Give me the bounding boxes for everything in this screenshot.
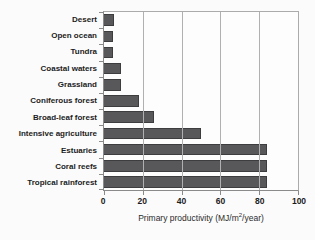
- bar: [104, 128, 201, 140]
- y-axis-tick-mark: [99, 189, 103, 190]
- x-tick-label: 60: [216, 196, 225, 206]
- bar-row: [104, 174, 298, 190]
- x-tick-label: 20: [137, 196, 146, 206]
- x-axis-tick-mark: [298, 191, 299, 195]
- bar: [104, 176, 267, 188]
- bar-row: [104, 142, 298, 158]
- y-axis-tick-mark: [99, 61, 103, 62]
- plot-area: [103, 11, 299, 191]
- category-labels: DesertOpen oceanTundraCoastal watersGras…: [0, 11, 97, 191]
- x-axis-tick-mark: [143, 191, 144, 195]
- bar-row: [104, 125, 298, 141]
- gridline: [143, 12, 144, 190]
- category-label: Grassland: [0, 76, 97, 92]
- bar-row: [104, 61, 298, 77]
- y-axis-tick-mark: [99, 77, 103, 78]
- bar: [104, 47, 113, 59]
- bar-row: [104, 44, 298, 60]
- y-axis-tick-mark: [99, 141, 103, 142]
- y-axis-tick-mark: [99, 44, 103, 45]
- x-tick-labels: 020406080100: [103, 196, 299, 207]
- bar-row: [104, 28, 298, 44]
- y-axis-tick-mark: [99, 158, 103, 159]
- gridline: [259, 12, 260, 190]
- category-label: Desert: [0, 11, 97, 27]
- bar: [104, 95, 139, 107]
- bar-row: [104, 158, 298, 174]
- category-label: Intensive agriculture: [0, 126, 97, 142]
- category-label: Tropical rainforest: [0, 175, 97, 191]
- category-label: Coastal waters: [0, 60, 97, 76]
- bar: [104, 79, 121, 91]
- y-axis-tick-mark: [99, 109, 103, 110]
- gridline: [182, 12, 183, 190]
- bar-rows: [104, 12, 298, 190]
- gridline: [220, 12, 221, 190]
- bar: [104, 31, 113, 43]
- bar-row: [104, 109, 298, 125]
- bar-row: [104, 93, 298, 109]
- x-axis-tick-mark: [104, 191, 105, 195]
- category-label: Broad-leaf forest: [0, 109, 97, 125]
- bar: [104, 144, 267, 156]
- bar-row: [104, 77, 298, 93]
- x-axis-title: Primary productivity (MJ/m2/year): [103, 213, 299, 223]
- bar: [104, 63, 121, 75]
- x-tick-label: 0: [101, 196, 106, 206]
- bar: [104, 111, 154, 123]
- bar: [104, 14, 114, 26]
- y-axis-tick-mark: [99, 28, 103, 29]
- bar: [104, 160, 267, 172]
- y-axis-tick-mark: [99, 125, 103, 126]
- x-axis-title-suffix: /year): [242, 213, 264, 223]
- category-label: Coniferous forest: [0, 93, 97, 109]
- x-axis-tick-mark: [220, 191, 221, 195]
- x-axis-tick-mark: [182, 191, 183, 195]
- x-axis-title-prefix: Primary productivity (MJ/m: [138, 213, 239, 223]
- x-axis-tick-mark: [259, 191, 260, 195]
- category-label: Coral reefs: [0, 158, 97, 174]
- x-tick-label: 80: [255, 196, 264, 206]
- bar-chart-figure: DesertOpen oceanTundraCoastal watersGras…: [0, 0, 315, 240]
- x-tick-label: 100: [292, 196, 306, 206]
- bar-row: [104, 12, 298, 28]
- x-tick-label: 40: [177, 196, 186, 206]
- category-label: Open ocean: [0, 27, 97, 43]
- y-axis-tick-mark: [99, 93, 103, 94]
- y-axis-tick-mark: [99, 12, 103, 13]
- category-label: Tundra: [0, 44, 97, 60]
- y-axis-tick-mark: [99, 174, 103, 175]
- category-label: Estuaries: [0, 142, 97, 158]
